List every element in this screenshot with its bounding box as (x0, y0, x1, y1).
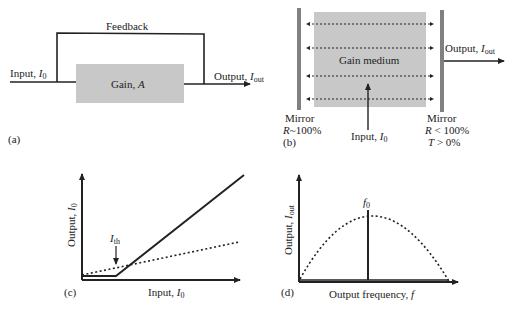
panel-tag-b: (b) (283, 136, 296, 149)
y-axis-label: Output, I0 (65, 203, 79, 247)
panel-tag-c: (c) (64, 286, 77, 299)
y-axis-label: Output, Iout (282, 204, 296, 255)
gain-curve (300, 216, 450, 283)
panel-b: Gain medium Input, I0 Output, Iout Mirro… (282, 8, 504, 149)
amplifier-curve (82, 242, 239, 275)
peak-label: f0 (363, 196, 370, 210)
gain-label: Gain, A (111, 78, 145, 90)
gain-medium-label: Gain medium (339, 54, 400, 66)
panel-c: Ith Output, I0 Input, I0 (c) (64, 174, 244, 300)
output-label-b: Output, Iout (445, 42, 496, 56)
mirror-right-label: Mirror (427, 112, 457, 124)
panel-tag-d: (d) (281, 286, 294, 299)
mirror-right (440, 10, 444, 112)
x-axis-label: Output frequency, f (329, 288, 416, 300)
x-axis-label: Input, I0 (148, 286, 184, 300)
laser-curve (82, 175, 244, 276)
feedback-label: Feedback (106, 20, 149, 32)
panel-d: f0 Output, Iout Output frequency, f (d) (281, 175, 458, 300)
threshold-label: Ith (109, 232, 120, 246)
panel-a: Gain, A Feedback Input, I0 Output, Iout … (8, 20, 265, 146)
mirror-left-label: Mirror (285, 112, 315, 124)
mirror-left-spec: R~100% (282, 124, 321, 136)
figure: Gain, A Feedback Input, I0 Output, Iout … (0, 0, 514, 311)
input-label: Input, I0 (10, 67, 46, 81)
mirror-right-spec-t: T > 0% (428, 136, 461, 148)
mirror-right-spec-r: R < 100% (424, 124, 469, 136)
output-label: Output, Iout (214, 70, 265, 84)
panel-tag-a: (a) (8, 133, 21, 146)
input-label-b: Input, I0 (351, 130, 387, 144)
mirror-left (297, 8, 301, 110)
